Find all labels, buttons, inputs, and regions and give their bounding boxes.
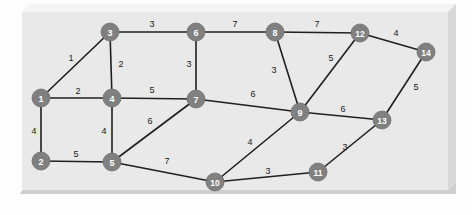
node-label: 6 xyxy=(193,28,198,38)
node-label: 11 xyxy=(314,168,323,178)
edge-weight-label: 4 xyxy=(101,126,106,136)
graph-node-7[interactable]: 7 xyxy=(187,90,205,108)
node-label: 2 xyxy=(38,157,43,167)
node-label: 4 xyxy=(109,94,114,104)
graph-node-5[interactable]: 5 xyxy=(103,153,121,171)
graph-node-10[interactable]: 10 xyxy=(206,173,224,191)
graph-node-2[interactable]: 2 xyxy=(32,152,50,170)
edge-weight-label: 2 xyxy=(118,59,123,69)
graph-edge xyxy=(275,32,360,33)
edge-weight-label: 6 xyxy=(147,116,152,126)
graph-node-14[interactable]: 14 xyxy=(417,43,435,61)
graph-canvas: 1245234567376374563345 12345678910111213… xyxy=(0,0,472,215)
graph-figure: 1245234567376374563345 12345678910111213… xyxy=(0,0,472,215)
node-label: 1 xyxy=(38,94,43,104)
edge-weight-label: 3 xyxy=(265,166,270,176)
graph-node-6[interactable]: 6 xyxy=(187,23,205,41)
graph-node-4[interactable]: 4 xyxy=(103,89,121,107)
edge-weight-label: 7 xyxy=(314,19,319,29)
edge-weight-label: 4 xyxy=(247,137,252,147)
graph-node-1[interactable]: 1 xyxy=(32,89,50,107)
edge-weight-label: 5 xyxy=(413,82,418,92)
graph-node-11[interactable]: 11 xyxy=(309,163,327,181)
node-label: 10 xyxy=(210,178,220,188)
node-label: 7 xyxy=(193,95,198,105)
node-label: 3 xyxy=(107,28,112,38)
edge-weight-label: 3 xyxy=(186,59,191,69)
panel-bevel-right xyxy=(448,4,456,190)
graph-edge xyxy=(112,98,196,99)
edge-weight-label: 3 xyxy=(271,65,276,75)
node-label: 9 xyxy=(297,108,302,118)
edge-weight-label: 3 xyxy=(149,19,154,29)
graph-node-8[interactable]: 8 xyxy=(266,23,284,41)
edge-weight-label: 5 xyxy=(73,149,78,159)
graph-node-9[interactable]: 9 xyxy=(291,103,309,121)
edge-weight-label: 1 xyxy=(68,53,73,63)
graph-node-12[interactable]: 12 xyxy=(351,24,369,42)
edge-weight-label: 7 xyxy=(232,19,237,29)
node-label: 14 xyxy=(421,48,431,58)
node-label: 5 xyxy=(109,158,114,168)
edge-weight-label: 6 xyxy=(340,104,345,114)
edge-weight-label: 3 xyxy=(342,142,347,152)
edge-weight-label: 6 xyxy=(250,89,255,99)
edge-weight-label: 7 xyxy=(164,156,169,166)
panel-bevel-top xyxy=(22,4,456,12)
edge-weight-label: 4 xyxy=(393,28,398,38)
edge-weight-label: 4 xyxy=(31,126,36,136)
node-label: 8 xyxy=(272,28,277,38)
graph-edge xyxy=(41,161,112,162)
edge-weight-label: 2 xyxy=(75,86,80,96)
edge-weight-label: 5 xyxy=(149,85,154,95)
node-label: 13 xyxy=(377,116,387,126)
edge-weight-label: 5 xyxy=(328,53,333,63)
graph-node-13[interactable]: 13 xyxy=(373,111,391,129)
node-label: 12 xyxy=(355,29,365,39)
panel-face xyxy=(22,12,448,190)
graph-node-3[interactable]: 3 xyxy=(101,23,119,41)
